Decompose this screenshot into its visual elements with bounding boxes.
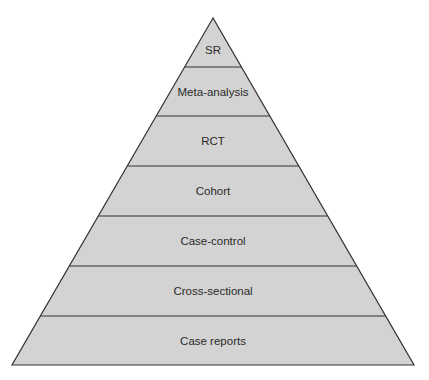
level-label-cross-sectional: Cross-sectional xyxy=(173,285,252,297)
level-label-case-control: Case-control xyxy=(180,235,245,247)
level-label-case-reports: Case reports xyxy=(180,335,246,347)
level-label-sr: SR xyxy=(205,44,221,56)
level-label-rct: RCT xyxy=(201,135,225,147)
level-label-cohort: Cohort xyxy=(196,185,231,197)
evidence-pyramid: SR Meta-analysis RCT Cohort Case-control… xyxy=(0,0,429,380)
level-label-meta-analysis: Meta-analysis xyxy=(178,86,249,98)
